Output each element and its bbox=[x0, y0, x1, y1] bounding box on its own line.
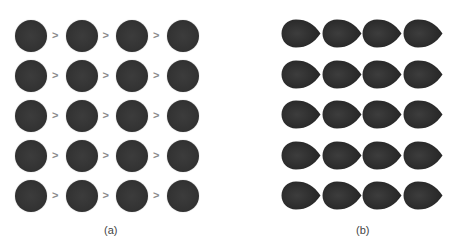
teardrop-shape bbox=[322, 141, 362, 170]
circle-shape bbox=[167, 100, 199, 132]
circle-shape bbox=[167, 180, 199, 212]
teardrop-shape bbox=[322, 60, 362, 89]
circle-shape bbox=[116, 180, 148, 212]
circle-shape bbox=[116, 20, 148, 52]
circle-shape bbox=[66, 60, 98, 92]
greater-than-separator: > bbox=[153, 150, 159, 161]
teardrop-shape bbox=[322, 19, 362, 48]
teardrop-shape bbox=[362, 100, 402, 129]
circle-shape bbox=[66, 180, 98, 212]
circle-shape bbox=[15, 100, 47, 132]
circle-shape bbox=[15, 20, 47, 52]
circle-shape bbox=[167, 60, 199, 92]
teardrop-shape bbox=[403, 60, 443, 89]
circle-shape bbox=[66, 140, 98, 172]
circle-shape bbox=[66, 100, 98, 132]
greater-than-separator: > bbox=[153, 190, 159, 201]
teardrop-shape bbox=[403, 181, 443, 210]
greater-than-separator: > bbox=[52, 30, 58, 41]
panel-a-label: (a) bbox=[104, 224, 117, 236]
greater-than-separator: > bbox=[52, 110, 58, 121]
teardrop-shape bbox=[362, 60, 402, 89]
circle-shape bbox=[66, 20, 98, 52]
greater-than-separator: > bbox=[153, 70, 159, 81]
greater-than-separator: > bbox=[52, 190, 58, 201]
teardrop-shape bbox=[322, 100, 362, 129]
circle-shape bbox=[15, 180, 47, 212]
circle-shape bbox=[167, 20, 199, 52]
teardrop-shape bbox=[281, 181, 321, 210]
greater-than-separator: > bbox=[153, 30, 159, 41]
circle-shape bbox=[116, 60, 148, 92]
teardrop-shape bbox=[281, 19, 321, 48]
teardrop-shape bbox=[281, 60, 321, 89]
teardrop-shape bbox=[281, 141, 321, 170]
circle-shape bbox=[116, 140, 148, 172]
greater-than-separator: > bbox=[103, 190, 109, 201]
teardrop-shape bbox=[281, 100, 321, 129]
teardrop-shape bbox=[403, 19, 443, 48]
circle-shape bbox=[15, 60, 47, 92]
teardrop-shape bbox=[362, 141, 402, 170]
teardrop-shape bbox=[362, 19, 402, 48]
circle-shape bbox=[167, 140, 199, 172]
panel-b-label: (b) bbox=[356, 224, 369, 236]
greater-than-separator: > bbox=[52, 70, 58, 81]
greater-than-separator: > bbox=[52, 150, 58, 161]
teardrop-shape bbox=[322, 181, 362, 210]
teardrop-shape bbox=[403, 100, 443, 129]
greater-than-separator: > bbox=[103, 110, 109, 121]
greater-than-separator: > bbox=[153, 110, 159, 121]
circle-shape bbox=[15, 140, 47, 172]
greater-than-separator: > bbox=[103, 150, 109, 161]
greater-than-separator: > bbox=[103, 70, 109, 81]
greater-than-separator: > bbox=[103, 30, 109, 41]
circle-shape bbox=[116, 100, 148, 132]
teardrop-shape bbox=[362, 181, 402, 210]
teardrop-shape bbox=[403, 141, 443, 170]
